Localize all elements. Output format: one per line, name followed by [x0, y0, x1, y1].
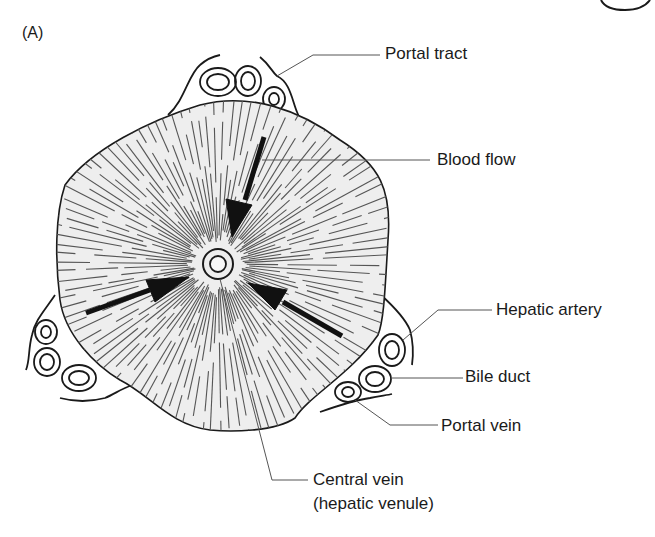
leader-portal-vein	[355, 400, 438, 425]
label-portal-tract: Portal tract	[385, 44, 467, 64]
leader-hepatic-artery	[403, 310, 492, 340]
corner-circle-fragment	[601, 0, 650, 10]
label-blood-flow: Blood flow	[437, 150, 515, 170]
leader-portal-tract	[277, 55, 380, 76]
panel-label: (A)	[22, 23, 43, 43]
label-hepatic-artery: Hepatic artery	[496, 300, 602, 320]
label-bile-duct: Bile duct	[465, 367, 530, 387]
central-vein	[203, 249, 233, 279]
label-hepatic-venule: (hepatic venule)	[313, 494, 434, 514]
label-central-vein: Central vein	[313, 470, 404, 490]
label-portal-vein: Portal vein	[441, 416, 521, 436]
liver-lobule-diagram	[0, 0, 655, 537]
